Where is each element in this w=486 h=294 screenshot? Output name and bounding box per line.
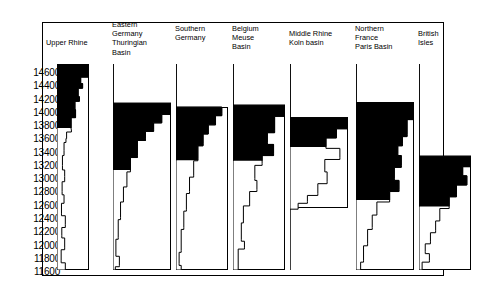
column-plot-5 — [290, 64, 348, 270]
column-plot-6 — [356, 64, 414, 270]
y-tick-12200: 12200 — [33, 227, 60, 237]
y-tick-14200: 14200 — [33, 95, 60, 105]
column-plot-7 — [419, 64, 471, 270]
y-tick-12400: 12400 — [33, 214, 60, 224]
y-tick-12600: 12600 — [33, 201, 60, 211]
column-silhouette-7 — [419, 64, 471, 270]
column-header-1: Upper Rhine — [46, 38, 108, 47]
y-tick-13200: 13200 — [33, 161, 60, 171]
y-tick-14000: 14000 — [33, 108, 60, 118]
column-header-6: Northern France Paris Basin — [355, 24, 417, 52]
column-header-2: Eastern Germany Thuringian Basin — [112, 20, 170, 57]
column-silhouette-6 — [356, 64, 414, 270]
y-tick-13400: 13400 — [33, 148, 60, 158]
column-silhouette-3 — [176, 64, 228, 270]
column-plot-4 — [233, 64, 285, 270]
chart-root: 1460014400142001400013800136001340013200… — [0, 0, 486, 294]
column-silhouette-2 — [113, 64, 171, 270]
y-tick-12000: 12000 — [33, 241, 60, 251]
y-tick-13800: 13800 — [33, 121, 60, 131]
y-tick-14400: 14400 — [33, 81, 60, 91]
column-plot-1 — [57, 64, 89, 270]
column-header-3: Southern Germany — [175, 24, 231, 42]
column-header-4: Belgium Meuse Basin — [232, 24, 288, 52]
column-silhouette-4 — [233, 64, 285, 270]
y-tick-13600: 13600 — [33, 134, 60, 144]
column-silhouette-1 — [57, 64, 89, 270]
column-header-5: Middle Rhine Koln basin — [289, 29, 355, 47]
column-header-7: British Isles — [418, 29, 468, 47]
column-plot-2 — [113, 64, 171, 270]
y-tick-14600: 14600 — [33, 68, 60, 78]
y-tick-12800: 12800 — [33, 187, 60, 197]
column-plot-3 — [176, 64, 228, 270]
column-silhouette-5 — [290, 64, 348, 270]
y-tick-13000: 13000 — [33, 174, 60, 184]
